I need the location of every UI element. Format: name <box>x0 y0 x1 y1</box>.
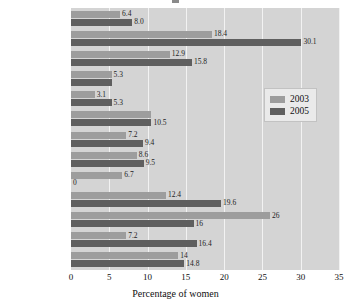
x-axis: 05101520253035 <box>71 272 339 286</box>
bar-group: 1414.8 <box>71 252 339 267</box>
bar-group: 2616 <box>71 212 339 227</box>
bar-2003-uzbekistan <box>71 232 126 239</box>
plot-area: 6.48.0Russia18.430.1Belarus12.915.8Moldo… <box>71 8 339 270</box>
bar-2003-russia <box>71 11 120 18</box>
legend-label-2003: 2003 <box>290 94 309 104</box>
bar-2003-kazakhstan <box>71 152 137 159</box>
bar-2003-azerbaijan <box>71 111 151 118</box>
bar-group: 12.419.6 <box>71 192 339 207</box>
bar-2003-armenia <box>71 91 95 98</box>
bar-group: 5.3 <box>71 71 339 86</box>
x-tick-label: 35 <box>335 272 344 282</box>
legend-swatch-2003 <box>270 96 285 103</box>
bar-value-label: 10.5 <box>153 119 166 126</box>
bar-2005-azerbaijan <box>71 119 151 126</box>
bar-value-label: 15.8 <box>194 58 207 65</box>
bar-2003-tajikistan <box>71 192 166 199</box>
bar-2003-ukraine <box>71 71 112 78</box>
bar-value-label: 18.4 <box>214 30 227 37</box>
bar-value-label: 7.2 <box>128 131 137 138</box>
bar-value-label: 8.0 <box>134 18 143 25</box>
bar-value-label: 5.3 <box>114 71 123 78</box>
x-axis-title: Percentage of women <box>0 288 351 299</box>
x-tick-label: 10 <box>143 272 152 282</box>
bar-value-label: 19.6 <box>223 199 236 206</box>
bar-2005-ukraine <box>71 79 112 86</box>
bar-value-label: 12.9 <box>172 50 185 57</box>
bar-value-label: 0 <box>73 179 77 186</box>
bar-2003-turkmenistan <box>71 212 270 219</box>
bar-2005-moldova <box>71 59 192 66</box>
bar-value-label: 16 <box>196 220 204 227</box>
bar-2005-turkmenistan <box>71 220 194 227</box>
bar-2005-armenia <box>71 99 112 106</box>
bar-2005-tajikistan <box>71 200 221 207</box>
bar-value-label: 3.1 <box>97 91 106 98</box>
legend-item-2003: 2003 <box>270 93 309 105</box>
bar-value-label: 26 <box>272 212 280 219</box>
bar-2005-kazakhstan <box>71 160 144 167</box>
bar-value-label: 6.4 <box>122 10 131 17</box>
x-tick-label: 30 <box>296 272 305 282</box>
bar-value-label: 14 <box>180 252 188 259</box>
bar-value-label: 16.4 <box>199 240 212 247</box>
bar-group: 7.216.4 <box>71 232 339 247</box>
bar-value-label: 9.5 <box>146 159 155 166</box>
legend-item-2005: 2005 <box>270 105 309 117</box>
x-tick-label: 5 <box>107 272 112 282</box>
legend-label-2005: 2005 <box>290 106 309 116</box>
bar-value-label: 7.2 <box>128 232 137 239</box>
bar-2003-kyrgyzstan <box>71 172 122 179</box>
x-tick-label: 15 <box>181 272 190 282</box>
x-tick-label: 0 <box>69 272 74 282</box>
bar-value-label: 8.6 <box>139 151 148 158</box>
bar-2005-united-states <box>71 260 184 267</box>
legend-swatch-2005 <box>270 108 285 115</box>
gridline <box>339 8 340 270</box>
bar-2003-belarus <box>71 31 212 38</box>
x-tick-label: 25 <box>258 272 267 282</box>
cropped-title-fragment <box>172 0 179 3</box>
bar-group: 12.915.8 <box>71 51 339 66</box>
bar-value-label: 12.4 <box>168 191 181 198</box>
bar-2003-united-states <box>71 252 178 259</box>
bar-value-label: 30.1 <box>303 38 316 45</box>
bar-group: 7.29.4 <box>71 132 339 147</box>
bar-2005-georgia <box>71 140 143 147</box>
bar-2005-russia <box>71 19 132 26</box>
bar-value-label: 5.3 <box>114 99 123 106</box>
bar-value-label: 9.4 <box>145 139 154 146</box>
x-tick-label: 20 <box>220 272 229 282</box>
bar-group: 18.430.1 <box>71 31 339 46</box>
bar-2003-moldova <box>71 51 170 58</box>
bar-value-label: 14.8 <box>186 260 199 267</box>
chart-legend: 2003 2005 <box>264 88 317 122</box>
bar-group: 6.70 <box>71 172 339 187</box>
bar-2005-uzbekistan <box>71 240 197 247</box>
bar-group: 6.48.0 <box>71 11 339 26</box>
bar-2005-belarus <box>71 39 301 46</box>
bar-group: 8.69.5 <box>71 152 339 167</box>
bar-2003-georgia <box>71 132 126 139</box>
bar-chart: 6.48.0Russia18.430.1Belarus12.915.8Moldo… <box>0 0 351 308</box>
bar-value-label: 6.7 <box>124 171 133 178</box>
